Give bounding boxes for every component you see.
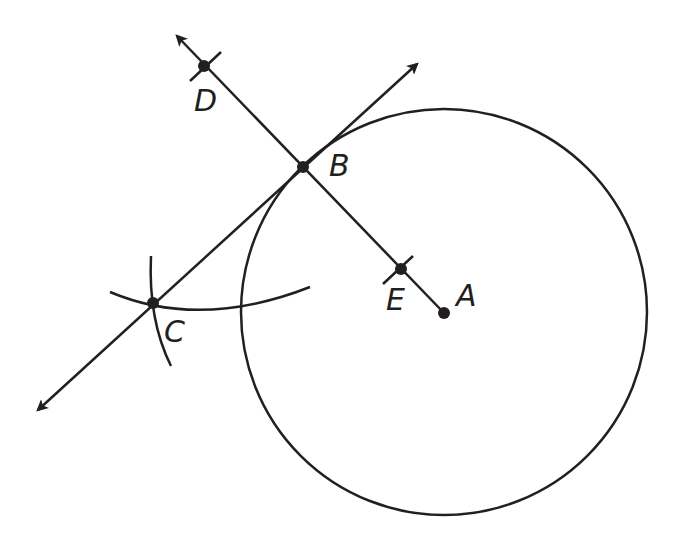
line-CB [38,64,417,410]
point-D [198,60,210,72]
point-B [297,161,309,173]
point-E [395,263,407,275]
arc-horizontal-C [110,287,310,310]
geometry-diagram: A B C D E [0,0,685,541]
point-C [147,297,159,309]
label-D: D [194,83,217,118]
label-A: A [454,278,477,313]
label-C: C [164,314,185,349]
label-B: B [329,148,350,183]
label-E: E [386,282,405,317]
arc-vertical-C [151,256,171,366]
point-A [438,307,450,319]
